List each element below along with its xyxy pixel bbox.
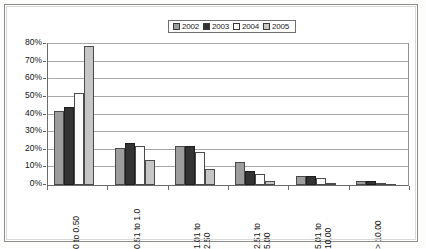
- y-tick-mark-80: [43, 43, 46, 44]
- legend-swatch-2005: [263, 23, 270, 30]
- bar-2004-4: [316, 178, 326, 185]
- gridline-30: [48, 131, 408, 132]
- legend-swatch-2003: [203, 23, 210, 30]
- bar-2003-2: [185, 146, 195, 185]
- x-axis-label-4: 5.01 to 10.00: [314, 193, 333, 249]
- bar-group-1: [115, 44, 155, 185]
- y-tick-label-70%: 70%: [8, 56, 42, 65]
- legend-item-2004: 2004: [233, 22, 259, 31]
- bar-2003-5: [366, 181, 376, 185]
- y-tick-label-30%: 30%: [8, 126, 42, 135]
- bar-2002-4: [296, 176, 306, 185]
- bar-2005-3: [265, 181, 275, 185]
- bar-2003-3: [245, 171, 255, 185]
- bar-group-5: [356, 44, 396, 185]
- y-tick-mark-70: [43, 61, 46, 62]
- legend-label-2003: 2003: [212, 22, 229, 31]
- legend-swatch-2004: [233, 23, 240, 30]
- y-tick-label-60%: 60%: [8, 73, 42, 82]
- x-axis-label-2: 1.01 to 2.50: [193, 193, 212, 249]
- bar-2004-1: [135, 146, 145, 185]
- y-tick-mark-20: [43, 149, 46, 150]
- chart-legend: 2002200320042005: [168, 20, 296, 33]
- bar-2002-0: [54, 111, 64, 185]
- chart-frame: 2002200320042005 0%10%20%30%40%50%60%70%…: [4, 4, 418, 242]
- legend-swatch-2002: [173, 23, 180, 30]
- y-tick-label-20%: 20%: [8, 144, 42, 153]
- bar-2005-0: [84, 46, 94, 185]
- x-tick-mark-1: [107, 186, 108, 190]
- bar-2004-0: [74, 93, 84, 185]
- bar-2002-2: [175, 146, 185, 185]
- legend-item-2003: 2003: [203, 22, 229, 31]
- bar-2004-3: [255, 174, 265, 185]
- gridline-70: [48, 61, 408, 62]
- bar-2002-3: [235, 162, 245, 185]
- bar-2005-2: [205, 169, 215, 185]
- y-tick-label-50%: 50%: [8, 91, 42, 100]
- legend-item-2002: 2002: [173, 22, 199, 31]
- y-tick-mark-10: [43, 166, 46, 167]
- x-axis-label-0: 0 to 0.50: [72, 193, 82, 249]
- gridline-80: [48, 43, 408, 44]
- y-tick-mark-30: [43, 131, 46, 132]
- bar-2002-5: [356, 181, 366, 185]
- gridline-50: [48, 96, 408, 97]
- bar-2002-1: [115, 148, 125, 185]
- legend-label-2005: 2005: [272, 22, 289, 31]
- x-tick-mark-2: [168, 186, 169, 190]
- x-tick-mark-0: [47, 186, 48, 190]
- x-tick-mark-5: [349, 186, 350, 190]
- y-tick-label-40%: 40%: [8, 109, 42, 118]
- x-axis-label-5: > 10.00: [374, 193, 384, 249]
- x-axis-label-1: 0.51 to 1.0: [133, 193, 143, 249]
- gridline-60: [48, 78, 408, 79]
- bar-2003-4: [306, 176, 316, 185]
- y-tick-label-80%: 80%: [8, 38, 42, 47]
- plot-area: [47, 43, 409, 186]
- gridline-40: [48, 114, 408, 115]
- bar-group-3: [235, 44, 275, 185]
- legend-item-2005: 2005: [263, 22, 289, 31]
- bar-2005-5: [386, 184, 396, 185]
- bar-2005-1: [145, 160, 155, 185]
- bar-2004-5: [376, 183, 386, 185]
- bar-2004-2: [195, 152, 205, 185]
- y-tick-label-0%: 0%: [8, 179, 42, 188]
- legend-label-2002: 2002: [182, 22, 199, 31]
- y-tick-label-10%: 10%: [8, 161, 42, 170]
- bar-2003-1: [125, 143, 135, 185]
- x-axis-label-3: 2.51 to 5.00: [253, 193, 272, 249]
- bar-2003-0: [64, 107, 74, 185]
- y-tick-mark-40: [43, 114, 46, 115]
- y-tick-mark-50: [43, 96, 46, 97]
- x-tick-mark-6: [409, 186, 410, 190]
- x-tick-mark-4: [288, 186, 289, 190]
- bar-group-2: [175, 44, 215, 185]
- gridline-10: [48, 166, 408, 167]
- gridline-20: [48, 149, 408, 150]
- legend-label-2004: 2004: [242, 22, 259, 31]
- x-tick-mark-3: [228, 186, 229, 190]
- bar-group-0: [54, 44, 94, 185]
- y-tick-mark-60: [43, 78, 46, 79]
- bar-2005-4: [326, 183, 336, 185]
- bar-group-4: [296, 44, 336, 185]
- y-tick-mark-0: [43, 184, 46, 185]
